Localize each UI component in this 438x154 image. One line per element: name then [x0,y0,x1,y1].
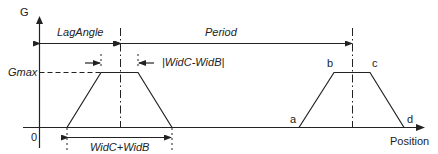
y-axis-arrow-icon [36,16,43,24]
width-diff-label: |WidC-WidB| [162,56,224,68]
x-axis [23,124,425,131]
period-label: Period [205,26,238,38]
x-axis-arrow-icon [416,124,425,131]
point-a-label: a [290,113,297,125]
lag-angle-label: LagAngle [57,26,104,38]
origin-label: 0 [31,131,37,143]
point-c-label: c [372,57,378,69]
y-axis-label: G [20,6,29,18]
point-b-label: b [327,57,333,69]
gmax-label: Gmax [8,66,38,78]
right-trapezoid [299,73,404,128]
point-d-label: d [407,113,413,125]
y-axis [36,16,43,148]
left-trapezoid [67,73,172,128]
trapezoid-profile-diagram: G Position 0 Gmax LagAngle Period |WidC-… [0,0,438,154]
x-axis-label: Position [390,135,429,147]
width-sum-label: WidC+WidB [90,141,149,153]
